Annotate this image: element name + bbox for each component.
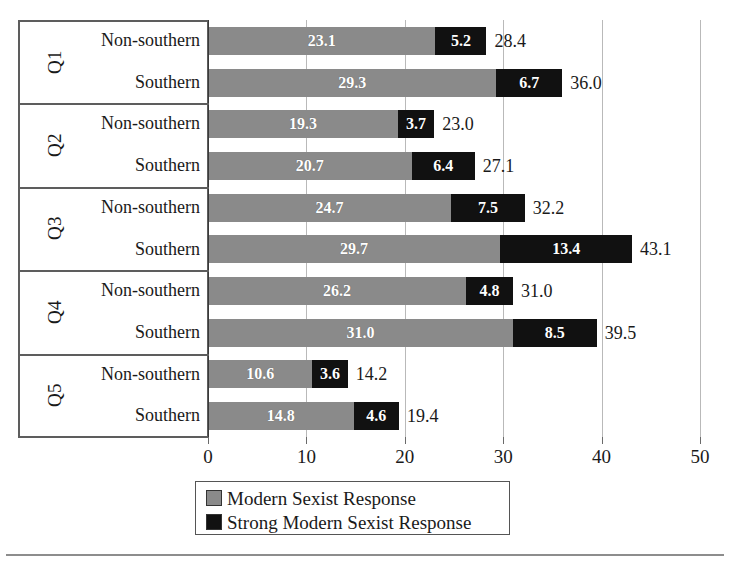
x-tick-label-40: 40 [592, 446, 611, 468]
bar-segment-value: 3.7 [406, 116, 426, 132]
group-separator [18, 270, 209, 272]
legend-label-modern-sexist-response: Modern Sexist Response [227, 489, 416, 508]
bar-segment-strong-modern: 6.4 [412, 152, 475, 180]
group-label-q3: Q3 [36, 187, 74, 270]
bar-total-value: 31.0 [513, 281, 553, 302]
bar-segment-value: 5.2 [451, 33, 471, 49]
bar-q1-non-southern: 23.15.228.4 [208, 27, 486, 55]
legend-swatch-gray-icon [206, 490, 222, 506]
row-label-q2-southern: Southern [135, 145, 200, 186]
group-label-text: Q5 [44, 383, 66, 407]
bar-segment-modern: 20.7 [208, 152, 412, 180]
x-tick-20 [405, 437, 406, 444]
bar-segment-strong-modern: 7.5 [451, 194, 525, 222]
x-tick-label-30: 30 [494, 446, 513, 468]
bar-segment-value: 7.5 [478, 200, 498, 216]
bar-segment-modern: 23.1 [208, 27, 435, 55]
group-label-q1: Q1 [36, 20, 74, 103]
x-tick-label-20: 20 [395, 446, 414, 468]
bar-segment-value: 31.0 [347, 325, 375, 341]
bar-segment-value: 3.6 [320, 366, 340, 382]
legend-item-modern-sexist-response: Modern Sexist Response [206, 486, 509, 510]
bar-q3-southern: 29.713.443.1 [208, 235, 632, 263]
bar-segment-strong-modern: 13.4 [500, 235, 632, 263]
bar-segment-value: 23.1 [308, 33, 336, 49]
x-tick-30 [503, 437, 504, 444]
bar-segment-strong-modern: 3.6 [312, 360, 347, 388]
bar-segment-value: 29.3 [338, 75, 366, 91]
bar-segment-modern: 14.8 [208, 402, 354, 430]
bar-segment-value: 4.6 [366, 408, 386, 424]
bar-q5-non-southern: 10.63.614.2 [208, 360, 348, 388]
bar-segment-value: 20.7 [296, 158, 324, 174]
x-tick-40 [602, 437, 603, 444]
plot-area: 23.15.228.429.36.736.019.33.723.020.76.4… [208, 20, 700, 437]
bar-q3-non-southern: 24.77.532.2 [208, 194, 525, 222]
x-tick-label-10: 10 [297, 446, 316, 468]
bar-segment-strong-modern: 4.8 [466, 277, 513, 305]
bar-segment-modern: 29.3 [208, 69, 496, 97]
legend-item-strong-modern-sexist-response: Strong Modern Sexist Response [206, 510, 509, 534]
bar-q2-southern: 20.76.427.1 [208, 152, 475, 180]
group-label-text: Q3 [44, 216, 66, 240]
bar-segment-value: 14.8 [267, 408, 295, 424]
row-label-q5-southern: Southern [135, 395, 200, 436]
bar-segment-value: 19.3 [289, 116, 317, 132]
bar-total-value: 39.5 [597, 322, 637, 343]
gridline-40 [602, 20, 603, 437]
bar-q4-southern: 31.08.539.5 [208, 319, 597, 347]
bar-segment-value: 10.6 [246, 366, 274, 382]
x-tick-label-0: 0 [203, 446, 213, 468]
row-label-q3-non-southern: Non-southern [101, 187, 200, 228]
bar-segment-value: 29.7 [340, 241, 368, 257]
category-label-table: Q1Non-southernSouthernQ2Non-southernSout… [18, 20, 208, 437]
bar-segment-value: 26.2 [323, 283, 351, 299]
row-label-q2-non-southern: Non-southern [101, 103, 200, 144]
stacked-bar-chart: 23.15.228.429.36.736.019.33.723.020.76.4… [0, 0, 730, 566]
bar-q5-southern: 14.84.619.4 [208, 402, 399, 430]
group-separator [18, 103, 209, 105]
bar-total-value: 36.0 [562, 72, 602, 93]
legend-swatch-black-icon [206, 514, 222, 530]
bar-segment-value: 24.7 [316, 200, 344, 216]
group-label-text: Q1 [44, 50, 66, 74]
x-tick-label-50: 50 [691, 446, 710, 468]
row-label-q1-non-southern: Non-southern [101, 20, 200, 61]
row-label-q5-non-southern: Non-southern [101, 354, 200, 395]
bar-q1-southern: 29.36.736.0 [208, 69, 562, 97]
bar-total-value: 14.2 [348, 364, 388, 385]
group-label-q4: Q4 [36, 270, 74, 353]
group-label-q5: Q5 [36, 354, 74, 437]
row-label-q3-southern: Southern [135, 229, 200, 270]
row-label-q4-non-southern: Non-southern [101, 270, 200, 311]
group-label-text: Q2 [44, 133, 66, 157]
group-label-q2: Q2 [36, 103, 74, 186]
legend-label-strong-modern-sexist-response: Strong Modern Sexist Response [227, 513, 471, 532]
bar-q4-non-southern: 26.24.831.0 [208, 277, 513, 305]
bar-segment-value: 13.4 [552, 241, 580, 257]
row-label-q1-southern: Southern [135, 62, 200, 103]
group-separator [18, 354, 209, 356]
bar-segment-value: 4.8 [479, 283, 499, 299]
bar-segment-value: 6.4 [433, 158, 453, 174]
bar-total-value: 19.4 [399, 406, 439, 427]
bar-total-value: 28.4 [486, 30, 526, 51]
bar-segment-modern: 19.3 [208, 110, 398, 138]
bar-segment-value: 8.5 [545, 325, 565, 341]
bar-segment-modern: 26.2 [208, 277, 466, 305]
bar-segment-strong-modern: 5.2 [435, 27, 486, 55]
bar-q2-non-southern: 19.33.723.0 [208, 110, 434, 138]
legend: Modern Sexist Response Strong Modern Sex… [195, 481, 510, 535]
bar-segment-strong-modern: 6.7 [496, 69, 562, 97]
bar-total-value: 27.1 [475, 155, 515, 176]
group-separator [18, 187, 209, 189]
bar-total-value: 32.2 [525, 197, 565, 218]
bar-segment-strong-modern: 4.6 [354, 402, 399, 430]
bar-segment-strong-modern: 3.7 [398, 110, 434, 138]
group-label-text: Q4 [44, 300, 66, 324]
footer-rule [6, 554, 724, 556]
row-label-q4-southern: Southern [135, 312, 200, 353]
x-tick-10 [306, 437, 307, 444]
bar-segment-strong-modern: 8.5 [513, 319, 597, 347]
x-tick-50 [700, 437, 701, 444]
